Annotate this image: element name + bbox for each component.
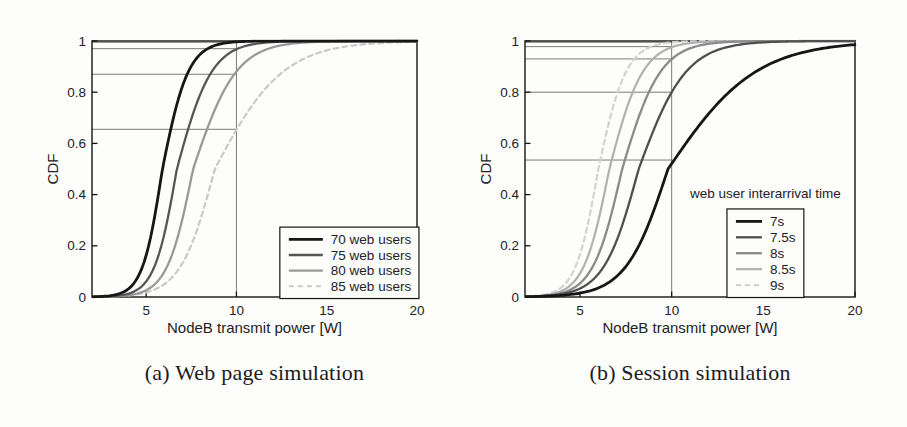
y-axis-ticks: 00.20.40.60.81 bbox=[500, 34, 530, 305]
x-axis-ticks: 5101520 bbox=[576, 292, 862, 319]
curve-7-5s bbox=[525, 41, 855, 297]
cdf-chart-session-simulation: 510152000.20.40.60.81NodeB transmit powe… bbox=[453, 0, 907, 345]
x-tick-label: 10 bbox=[229, 303, 244, 318]
legend-label: 8s bbox=[770, 246, 785, 261]
y-tick-label: 0 bbox=[511, 290, 519, 305]
y-tick-label: 0.2 bbox=[67, 238, 86, 253]
subfigure-b-caption: (b) Session simulation bbox=[525, 360, 855, 386]
legend-label: 7s bbox=[770, 214, 785, 229]
x-tick-label: 15 bbox=[756, 303, 771, 318]
x-tick-label: 5 bbox=[576, 303, 584, 318]
curve-7s bbox=[525, 45, 855, 297]
plot-border bbox=[525, 41, 855, 297]
y-tick-label: 0.8 bbox=[500, 85, 519, 100]
legend-label: 85 web users bbox=[331, 279, 412, 294]
cdf-chart-web-page-simulation: 510152000.20.40.60.81NodeB transmit powe… bbox=[0, 0, 453, 345]
y-tick-label: 0.8 bbox=[67, 85, 86, 100]
legend-title: web user interarrival time bbox=[689, 186, 841, 201]
legend: web user interarrival time7s7.5s8s8.5s9s bbox=[689, 186, 841, 297]
subfigure-a-caption: (a) Web page simulation bbox=[92, 360, 417, 386]
y-tick-label: 0.6 bbox=[67, 136, 86, 151]
series-curves bbox=[525, 41, 855, 297]
x-axis-label: NodeB transmit power [W] bbox=[167, 319, 342, 336]
legend-label: 8.5s bbox=[770, 262, 796, 277]
x-tick-label: 5 bbox=[142, 303, 150, 318]
legend-label: 9s bbox=[770, 278, 785, 293]
x-tick-label: 15 bbox=[319, 303, 334, 318]
legend-label: 75 web users bbox=[331, 248, 412, 263]
subfigure-a: 510152000.20.40.60.81NodeB transmit powe… bbox=[0, 0, 453, 427]
y-tick-label: 0 bbox=[78, 290, 86, 305]
curve-9s bbox=[525, 41, 855, 297]
legend-label: 80 web users bbox=[331, 263, 412, 278]
y-axis-label: CDF bbox=[44, 154, 61, 185]
x-tick-label: 20 bbox=[847, 303, 862, 318]
legend-label: 7.5s bbox=[770, 230, 796, 245]
curve-8-5s bbox=[525, 41, 855, 297]
legend: 70 web users75 web users80 web users85 w… bbox=[280, 227, 419, 298]
legend-label: 70 web users bbox=[331, 232, 412, 247]
x-tick-label: 10 bbox=[664, 303, 679, 318]
y-tick-label: 1 bbox=[511, 34, 519, 49]
figure-canvas: 510152000.20.40.60.81NodeB transmit powe… bbox=[0, 0, 907, 427]
y-tick-label: 1 bbox=[78, 34, 86, 49]
x-axis-label: NodeB transmit power [W] bbox=[602, 319, 777, 336]
y-tick-label: 0.4 bbox=[500, 187, 519, 202]
x-tick-label: 20 bbox=[409, 303, 424, 318]
y-axis-label: CDF bbox=[477, 154, 494, 185]
curve-8s bbox=[525, 41, 855, 297]
y-tick-label: 0.4 bbox=[67, 187, 86, 202]
y-tick-label: 0.6 bbox=[500, 136, 519, 151]
y-tick-label: 0.2 bbox=[500, 238, 519, 253]
subfigure-b: 510152000.20.40.60.81NodeB transmit powe… bbox=[453, 0, 907, 427]
